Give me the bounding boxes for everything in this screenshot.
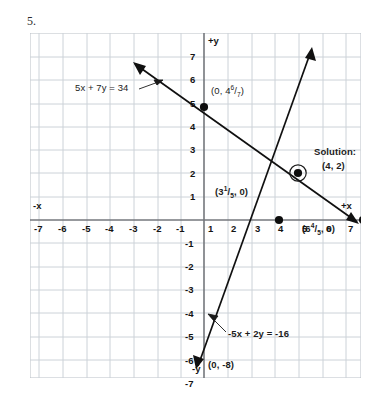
y-tick-label: 3 (190, 144, 195, 155)
x-tick-label: 3 (255, 223, 260, 234)
axis-label-negative-x: -x (33, 200, 41, 211)
y-tick-label: -2 (185, 261, 193, 272)
x-tick-label: -5 (82, 223, 90, 234)
y-tick-label: -4 (185, 308, 193, 319)
point-label-x-intercept-line2: (31/5, 0) (215, 186, 248, 197)
equation-label-line2: -5x + 2y = -16 (228, 328, 289, 339)
equation-label-line1: 5x + 7y = 34 (75, 82, 129, 93)
x-tick-label: -4 (105, 223, 113, 234)
axis-label-positive-y: +y (208, 35, 219, 46)
y-tick-label: 5 (190, 98, 195, 109)
axis-label-positive-x: +x (341, 200, 352, 211)
x-tick-label: 4 (278, 223, 283, 234)
problem-number: 5. (27, 14, 36, 29)
y-tick-label: -3 (185, 284, 193, 295)
x-tick-label: 2 (231, 223, 236, 234)
solution-label-title: Solution: (314, 146, 356, 157)
solution-label-coords: (4, 2) (322, 160, 345, 171)
y-tick-label: 6 (190, 74, 195, 85)
point-y-intercept-line1 (200, 103, 208, 111)
point-label-y-intercept-line1: (0, 46/7) (211, 85, 244, 96)
point-label-y-intercept-line2: (0, -8) (208, 359, 234, 370)
y-tick-label: -1 (185, 238, 193, 249)
y-tick-label: -6 (185, 355, 193, 366)
x-tick-label: 7 (348, 223, 353, 234)
x-tick-label: -3 (129, 223, 137, 234)
x-tick-label: -6 (58, 223, 66, 234)
point-solution (294, 169, 302, 177)
x-tick-label: 5 (302, 223, 307, 234)
y-tick-label: 1 (190, 191, 195, 202)
x-tick-label: 6 (326, 223, 331, 234)
coordinate-graph: 5x + 7y = 34 (0, 46/7) (31/5, 0) (64/5, … (30, 33, 361, 378)
y-tick-label: 4 (190, 121, 195, 132)
y-tick-label: 7 (190, 51, 195, 62)
x-tick-label: -1 (176, 223, 184, 234)
x-tick-label: -7 (34, 223, 42, 234)
x-tick-label: -2 (153, 223, 161, 234)
y-tick-label: -5 (185, 331, 193, 342)
y-tick-label: 2 (190, 168, 195, 179)
x-tick-label: 1 (208, 223, 213, 234)
y-tick-label: -7 (185, 378, 193, 389)
